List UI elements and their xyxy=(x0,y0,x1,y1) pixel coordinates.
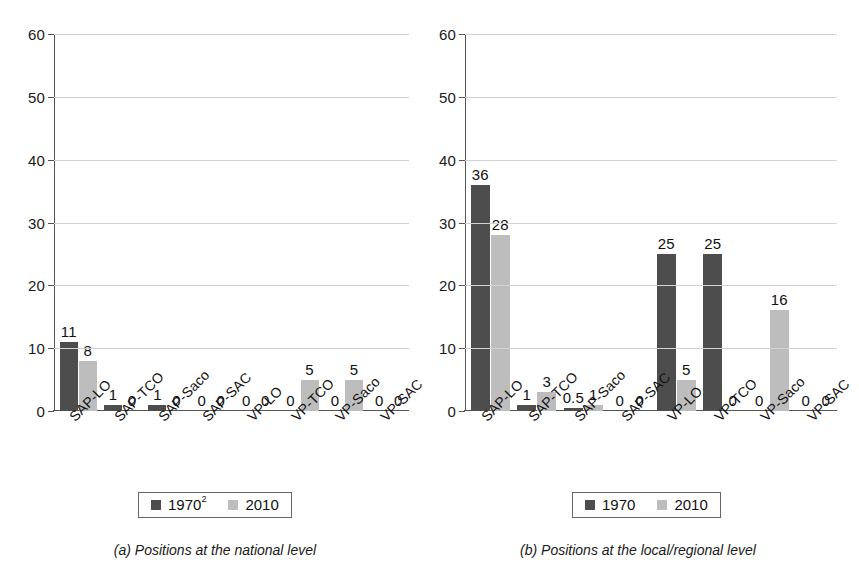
caption-b: (b) Positions at the local/regional leve… xyxy=(423,542,853,558)
gridline xyxy=(54,348,409,349)
legend-a: 197022010 xyxy=(138,492,292,518)
y-axis-tick-label: 10 xyxy=(28,340,45,357)
plot-area-b: 3628130.510025525001600 0102030405060 xyxy=(465,34,837,411)
gridline xyxy=(54,160,409,161)
legend-b: 19702010 xyxy=(572,492,721,518)
gridline xyxy=(465,285,837,286)
y-axis-tick xyxy=(48,285,54,286)
y-axis-tick xyxy=(48,34,54,35)
caption-a: (a) Positions at the national level xyxy=(0,542,430,558)
legend-label: 1970 xyxy=(602,496,635,513)
y-axis-tick xyxy=(48,160,54,161)
gridline xyxy=(465,34,837,35)
y-axis-tick xyxy=(459,348,465,349)
y-axis-tick xyxy=(48,223,54,224)
legend-swatch-icon xyxy=(657,500,667,510)
bar-1970-SAP-LO xyxy=(471,185,490,411)
bar-1970-VP-TCO xyxy=(703,254,722,411)
gridline xyxy=(465,97,837,98)
y-axis-tick-label: 30 xyxy=(439,214,456,231)
legend-label: 19702 xyxy=(168,496,206,513)
y-axis-tick xyxy=(459,160,465,161)
legend-swatch-icon xyxy=(585,500,595,510)
figure-page: 11810100000050500 0102030405060 SAP-LOSA… xyxy=(0,0,859,573)
legend-label: 2010 xyxy=(674,496,707,513)
gridline xyxy=(54,97,409,98)
gridline xyxy=(54,34,409,35)
y-axis-tick-label: 60 xyxy=(439,26,456,43)
x-axis-labels-b: SAP-LOSAP-TCOSAP-SacoSAP-SACVP-LOVP-TCOV… xyxy=(465,413,837,481)
y-axis-tick-label: 60 xyxy=(28,26,45,43)
y-axis-tick-label: 50 xyxy=(28,88,45,105)
y-axis-tick-label: 10 xyxy=(439,340,456,357)
gridline xyxy=(54,285,409,286)
y-axis-tick xyxy=(459,34,465,35)
y-axis-tick xyxy=(459,223,465,224)
legend-item-1970: 1970 xyxy=(585,496,635,513)
y-axis-tick-label: 40 xyxy=(439,151,456,168)
chart-panel-a: 11810100000050500 0102030405060 SAP-LOSA… xyxy=(0,0,430,573)
y-axis-tick-label: 40 xyxy=(28,151,45,168)
y-axis-tick-label: 20 xyxy=(28,277,45,294)
y-axis-tick xyxy=(48,348,54,349)
y-axis-tick-label: 50 xyxy=(439,88,456,105)
gridline xyxy=(465,223,837,224)
y-axis-tick xyxy=(459,97,465,98)
bar-1970-SAP-LO xyxy=(60,342,78,411)
y-axis-tick-label: 0 xyxy=(447,403,456,420)
legend-swatch-icon xyxy=(228,500,238,510)
legend-item-1970: 19702 xyxy=(151,496,206,513)
x-axis-labels-a: SAP-LOSAP-TCOSAP-SacoSAP-SACVP-LOVP-TCOV… xyxy=(54,413,409,481)
y-axis-tick xyxy=(459,285,465,286)
y-axis-tick-label: 30 xyxy=(28,214,45,231)
legend-swatch-icon xyxy=(151,500,161,510)
gridline xyxy=(54,223,409,224)
y-axis-tick xyxy=(48,97,54,98)
legend-label: 2010 xyxy=(245,496,278,513)
legend-footnote-marker: 2 xyxy=(201,494,206,504)
y-axis-tick-label: 20 xyxy=(439,277,456,294)
legend-item-2010: 2010 xyxy=(228,496,278,513)
chart-panel-b: 3628130.510025525001600 0102030405060 SA… xyxy=(429,0,859,573)
gridline xyxy=(465,160,837,161)
y-axis-tick xyxy=(459,411,465,412)
y-axis-tick xyxy=(48,411,54,412)
plot-area-a: 11810100000050500 0102030405060 xyxy=(54,34,409,411)
gridline xyxy=(465,348,837,349)
legend-item-2010: 2010 xyxy=(657,496,707,513)
y-axis-tick-label: 0 xyxy=(36,403,45,420)
